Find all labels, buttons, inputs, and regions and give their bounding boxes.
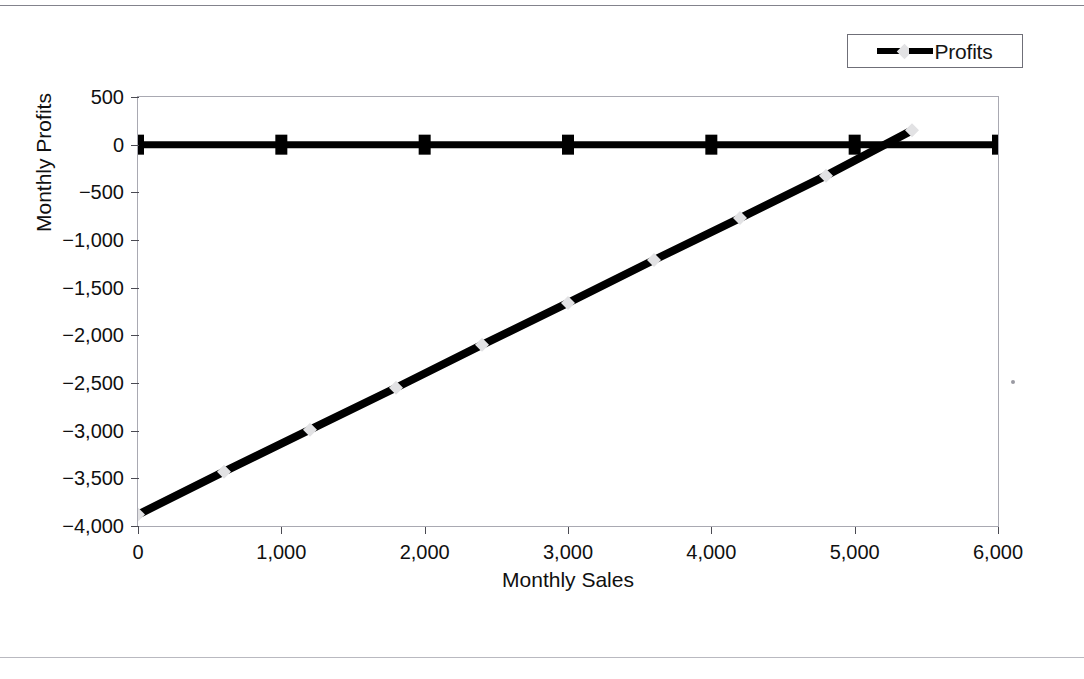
y-tick-mark bbox=[131, 240, 139, 241]
x-tick-mark bbox=[711, 527, 712, 534]
y-axis-tick-labels: 5000−500−1,000−1,500−2,000−2,500−3,000−3… bbox=[0, 0, 124, 679]
x-tick-label: 2,000 bbox=[400, 542, 450, 562]
plot-area-frame bbox=[137, 96, 999, 527]
x-tick-mark bbox=[855, 527, 856, 534]
page-rule-bottom bbox=[0, 657, 1084, 658]
chart-page: Profits 5000−500−1,000−1,500−2,000−2,500… bbox=[0, 0, 1084, 679]
y-tick-mark bbox=[131, 288, 139, 289]
x-axis-title: Monthly Sales bbox=[137, 569, 999, 591]
x-tick-mark bbox=[425, 527, 426, 534]
y-tick-mark bbox=[131, 145, 139, 146]
x-tick-label: 4,000 bbox=[686, 542, 736, 562]
x-tick-label: 3,000 bbox=[543, 542, 593, 562]
x-tick-mark bbox=[281, 527, 282, 534]
x-tick-label: 0 bbox=[132, 542, 143, 562]
x-tick-label: 6,000 bbox=[973, 542, 1023, 562]
y-tick-mark bbox=[131, 383, 139, 384]
y-tick-mark bbox=[131, 192, 139, 193]
x-tick-mark bbox=[998, 527, 999, 534]
x-tick-mark bbox=[568, 527, 569, 534]
scan-artifact-speck bbox=[1011, 380, 1015, 384]
y-axis-title: Monthly Profits bbox=[33, 93, 54, 232]
plot-area bbox=[138, 97, 998, 526]
legend-item-label: Profits bbox=[934, 41, 992, 62]
y-tick-mark bbox=[131, 478, 139, 479]
x-tick-label: 5,000 bbox=[830, 542, 880, 562]
legend-item-profits[interactable]: Profits bbox=[877, 35, 992, 67]
legend-line-sample-icon bbox=[877, 44, 933, 58]
chart-legend[interactable]: Profits bbox=[847, 34, 1023, 68]
page-rule-top bbox=[0, 5, 1084, 6]
chart-canvas bbox=[138, 97, 998, 526]
x-axis-tick-labels: 01,0002,0003,0004,0005,0006,000 bbox=[0, 542, 1084, 572]
y-tick-mark bbox=[131, 431, 139, 432]
y-tick-mark bbox=[131, 97, 139, 98]
x-tick-label: 1,000 bbox=[256, 542, 306, 562]
y-tick-mark bbox=[131, 335, 139, 336]
x-tick-mark bbox=[138, 527, 139, 534]
series-profits bbox=[138, 123, 919, 521]
